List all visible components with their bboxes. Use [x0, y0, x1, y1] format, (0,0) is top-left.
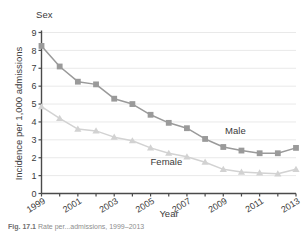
marker-male	[111, 96, 117, 102]
figure-container: Sex Incidence per 1,000 admissions Year …	[0, 0, 302, 232]
y-tick-label: 2	[31, 153, 36, 163]
line-chart-plot: 0123456789199920012003200520072009201120…	[0, 0, 302, 232]
caption-number: Fig. 17.1	[8, 223, 36, 230]
x-tick-label: 1999	[25, 196, 47, 215]
marker-male	[129, 101, 135, 107]
y-tick-label: 3	[31, 135, 36, 145]
x-tick-label: 2003	[97, 196, 119, 215]
marker-male	[75, 79, 81, 85]
marker-male	[39, 43, 45, 49]
y-tick-label: 6	[31, 81, 36, 91]
marker-female	[292, 166, 299, 172]
figure-caption: Fig. 17.1 Rate per...admissions, 1999–20…	[8, 222, 298, 231]
x-tick-label: 2001	[61, 196, 83, 215]
x-tick-label: 2009	[207, 196, 229, 215]
marker-male	[148, 112, 154, 118]
x-tick-label: 2013	[279, 196, 301, 215]
y-tick-label: 8	[31, 46, 36, 56]
marker-male	[57, 64, 63, 70]
y-tick-label: 4	[31, 117, 36, 127]
marker-male	[202, 136, 208, 142]
x-tick-label: 2011	[243, 196, 265, 215]
series-label-male: Male	[225, 125, 246, 136]
caption-body: Rate per...admissions, 1999–2013	[38, 223, 144, 230]
series-label-female: Female	[151, 156, 183, 167]
marker-male	[239, 148, 245, 154]
series-line-male	[42, 46, 297, 153]
y-tick-label: 9	[31, 28, 36, 38]
y-tick-label: 0	[31, 189, 36, 199]
y-tick-label: 7	[31, 63, 36, 73]
marker-male	[220, 144, 226, 150]
marker-female	[56, 115, 63, 121]
marker-male	[275, 150, 281, 156]
x-tick-label: 2007	[170, 196, 192, 215]
marker-male	[166, 120, 172, 126]
x-tick-label: 2005	[134, 196, 156, 215]
marker-male	[184, 125, 190, 131]
marker-male	[257, 150, 263, 156]
y-tick-label: 1	[31, 171, 36, 181]
marker-male	[293, 145, 299, 151]
y-tick-label: 5	[31, 99, 36, 109]
marker-male	[93, 81, 99, 87]
